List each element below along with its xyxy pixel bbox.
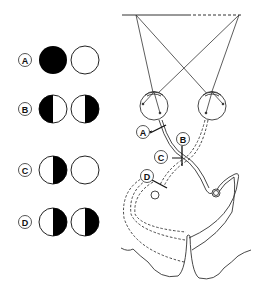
legend-row-a: A xyxy=(19,46,100,74)
svg-text:A: A xyxy=(140,128,147,138)
left-eye xyxy=(140,92,168,121)
legend-row-d: D xyxy=(19,208,100,236)
lesion-label-c: C xyxy=(155,151,168,164)
field-right-eye-c xyxy=(71,156,99,184)
lesion-label-a: A xyxy=(137,126,150,139)
legend-row-b: B xyxy=(19,95,100,123)
lesion-label-d: D xyxy=(141,170,154,183)
field-left-eye-a xyxy=(39,46,67,74)
occipital-cortex xyxy=(121,235,251,279)
dashed-pathway xyxy=(124,120,209,262)
right-eye xyxy=(198,92,226,121)
label-b: B xyxy=(22,105,29,115)
lesion-label-b: B xyxy=(177,133,190,146)
label-d: D xyxy=(22,218,29,228)
svg-text:D: D xyxy=(144,172,151,182)
legend-row-c: C xyxy=(19,156,100,184)
svg-text:B: B xyxy=(180,135,187,145)
label-c: C xyxy=(22,166,29,176)
lgn-left xyxy=(151,191,159,199)
label-a: A xyxy=(22,56,29,66)
field-right-eye-a xyxy=(71,46,99,74)
svg-text:C: C xyxy=(158,153,165,163)
lesion-a-marker xyxy=(150,125,166,133)
visual-pathway-diagram: A B C D xyxy=(0,0,257,293)
light-rays xyxy=(136,15,239,97)
